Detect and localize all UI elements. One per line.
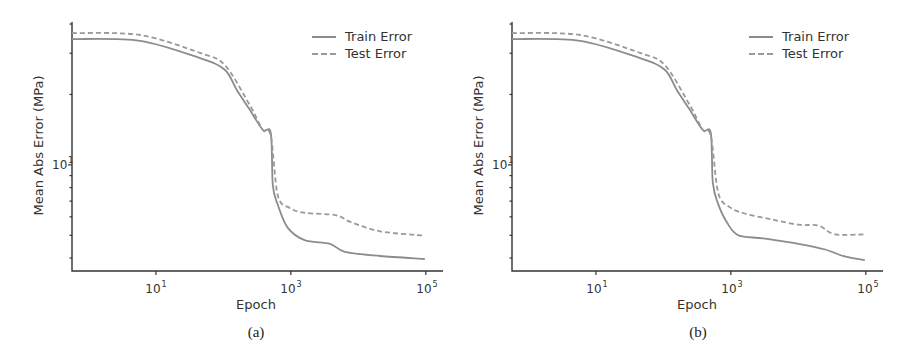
x-axis-label-a: Epoch — [236, 297, 276, 312]
legend-item-test: Test Error — [749, 45, 849, 62]
train-error-line — [512, 39, 865, 260]
xtick-label-b-1000: 103 — [721, 280, 742, 296]
y-axis-label-b: Mean Abs Error (MPa) — [471, 76, 486, 216]
test-error-line — [72, 33, 425, 236]
caption-a: (a) — [248, 324, 265, 341]
legend-a: Train Error Test Error — [312, 28, 412, 62]
xtick-label-a-1000: 103 — [280, 280, 301, 296]
solid-line-icon — [749, 36, 773, 38]
xtick-label-a-100000: 105 — [416, 280, 437, 296]
xtick-label-a-10: 101 — [145, 280, 166, 296]
legend-b: Train Error Test Error — [749, 28, 849, 62]
dashed-line-icon — [312, 53, 336, 55]
xtick-label-b-100000: 105 — [857, 280, 878, 296]
panel-a: Mean Abs Error (MPa) 101 101 103 105 Epo… — [0, 0, 456, 356]
ytick-label-a-10: 101 — [52, 156, 73, 172]
legend-item-train: Train Error — [312, 28, 412, 45]
dashed-line-icon — [749, 53, 773, 55]
legend-item-train: Train Error — [749, 28, 849, 45]
caption-b: (b) — [689, 324, 707, 341]
xtick-label-b-10: 101 — [586, 280, 607, 296]
panel-b: Mean Abs Error (MPa) 101 101 103 105 Epo… — [440, 0, 896, 356]
solid-line-icon — [312, 36, 336, 38]
test-error-line — [512, 33, 865, 235]
train-error-line — [72, 39, 425, 259]
legend-item-test: Test Error — [312, 45, 412, 62]
ytick-label-b-10: 101 — [492, 156, 513, 172]
x-axis-label-b: Epoch — [677, 297, 717, 312]
y-axis-label-a: Mean Abs Error (MPa) — [31, 76, 46, 216]
